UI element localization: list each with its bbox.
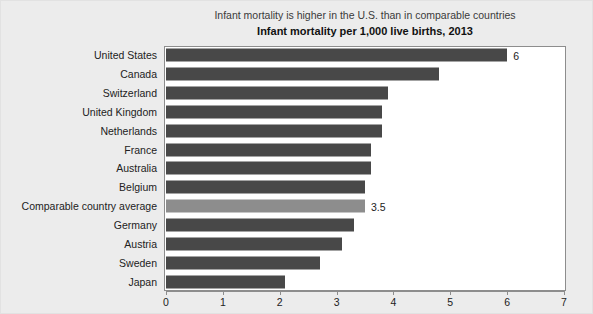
bar-row[interactable]: United States6 bbox=[1, 46, 593, 65]
x-axis-tick bbox=[280, 291, 281, 295]
x-axis-tick bbox=[393, 291, 394, 295]
bar-row[interactable]: Comparable country average3.5 bbox=[1, 197, 593, 216]
bar-row[interactable]: Switzerland bbox=[1, 84, 593, 103]
x-axis-tick bbox=[450, 291, 451, 295]
x-axis-tick bbox=[507, 291, 508, 295]
bar-value-label: 3.5 bbox=[371, 200, 386, 212]
x-axis-tick bbox=[337, 291, 338, 295]
chart-title: Infant mortality per 1,000 live births, … bbox=[164, 24, 566, 39]
chart-subtitle: Infant mortality is higher in the U.S. t… bbox=[164, 8, 566, 23]
bar[interactable] bbox=[166, 105, 382, 118]
bar-row[interactable]: Austria bbox=[1, 234, 593, 253]
bar-container: 6 bbox=[166, 49, 507, 62]
bar-container bbox=[166, 68, 439, 81]
bar-container bbox=[166, 256, 320, 269]
x-axis-tick-label: 1 bbox=[220, 296, 226, 308]
bar-container bbox=[166, 275, 285, 288]
bar-row[interactable]: Netherlands bbox=[1, 121, 593, 140]
bar-highlighted[interactable] bbox=[166, 200, 365, 213]
bar-container bbox=[166, 162, 371, 175]
bar-container bbox=[166, 105, 382, 118]
bar-container bbox=[166, 181, 365, 194]
x-axis-line bbox=[166, 291, 564, 292]
bar[interactable] bbox=[166, 181, 365, 194]
bar[interactable] bbox=[166, 275, 285, 288]
bar-row[interactable]: Germany bbox=[1, 216, 593, 235]
x-axis-tick-label: 4 bbox=[391, 296, 397, 308]
category-label: Comparable country average bbox=[22, 200, 157, 212]
bar-container bbox=[166, 87, 388, 100]
bar-row[interactable]: Belgium bbox=[1, 178, 593, 197]
bar-row[interactable]: United Kingdom bbox=[1, 103, 593, 122]
bar[interactable] bbox=[166, 256, 320, 269]
x-axis: 01234567 bbox=[164, 291, 566, 314]
category-label: France bbox=[124, 144, 157, 156]
bar[interactable] bbox=[166, 237, 342, 250]
bar[interactable] bbox=[166, 143, 371, 156]
x-axis-tick bbox=[223, 291, 224, 295]
category-label: Austria bbox=[124, 238, 157, 250]
bar[interactable] bbox=[166, 87, 388, 100]
chart-title-block: Infant mortality is higher in the U.S. t… bbox=[164, 8, 566, 39]
bar-row[interactable]: Sweden bbox=[1, 253, 593, 272]
x-axis-tick bbox=[564, 291, 565, 295]
category-label: Netherlands bbox=[100, 125, 157, 137]
category-label: United Kingdom bbox=[82, 106, 157, 118]
bar-container bbox=[166, 124, 382, 137]
bar-row[interactable]: Japan bbox=[1, 272, 593, 291]
category-label: Japan bbox=[128, 276, 157, 288]
bar-container bbox=[166, 219, 354, 232]
x-axis-tick-label: 5 bbox=[447, 296, 453, 308]
category-label: United States bbox=[94, 49, 157, 61]
category-label: Canada bbox=[120, 68, 157, 80]
bar-row[interactable]: France bbox=[1, 140, 593, 159]
category-label: Germany bbox=[114, 219, 157, 231]
category-label: Australia bbox=[116, 162, 157, 174]
x-axis-tick-label: 6 bbox=[504, 296, 510, 308]
bar[interactable] bbox=[166, 49, 507, 62]
bar-row[interactable]: Australia bbox=[1, 159, 593, 178]
bar[interactable] bbox=[166, 124, 382, 137]
chart-page: Infant mortality is higher in the U.S. t… bbox=[0, 0, 593, 314]
category-label: Sweden bbox=[119, 257, 157, 269]
x-axis-tick-label: 0 bbox=[163, 296, 169, 308]
category-label: Switzerland bbox=[103, 87, 157, 99]
x-axis-tick-label: 3 bbox=[334, 296, 340, 308]
x-axis-tick-label: 2 bbox=[277, 296, 283, 308]
x-axis-tick-label: 7 bbox=[561, 296, 567, 308]
bar-value-label: 6 bbox=[513, 49, 519, 61]
bar-row[interactable]: Canada bbox=[1, 65, 593, 84]
bar-rows: United States6CanadaSwitzerlandUnited Ki… bbox=[1, 1, 593, 314]
bar-container bbox=[166, 143, 371, 156]
bar[interactable] bbox=[166, 162, 371, 175]
bar[interactable] bbox=[166, 219, 354, 232]
bar[interactable] bbox=[166, 68, 439, 81]
bar-container: 3.5 bbox=[166, 200, 365, 213]
x-axis-tick bbox=[166, 291, 167, 295]
category-label: Belgium bbox=[119, 181, 157, 193]
bar-container bbox=[166, 237, 342, 250]
